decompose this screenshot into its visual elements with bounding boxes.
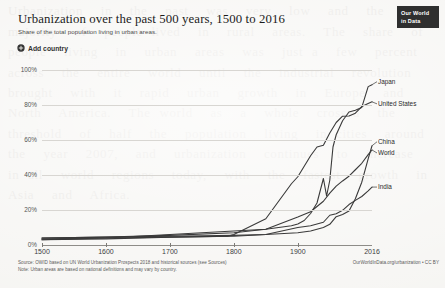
y-tick-label-60: 60% [2, 136, 37, 143]
plus-circle-icon [17, 44, 25, 52]
chart-title: Urbanization over the past 500 years, 15… [18, 12, 285, 27]
x-tick-label-1800: 1800 [226, 248, 242, 255]
gridline-20 [42, 210, 372, 211]
x-tick-label-1700: 1700 [162, 248, 178, 255]
series-lines [42, 70, 372, 245]
gridline-100 [42, 70, 372, 71]
y-tick-label-100: 100% [2, 66, 37, 73]
series-line-india[interactable] [42, 187, 372, 239]
series-label-united-states[interactable]: United States [378, 100, 416, 107]
series-label-world[interactable]: World [378, 149, 395, 156]
y-tick-label-20: 20% [2, 206, 37, 213]
plot-area [42, 70, 372, 245]
y-tick-label-40: 40% [2, 171, 37, 178]
leader-line-united-states [372, 102, 377, 104]
series-label-japan[interactable]: Japan [378, 78, 395, 85]
x-tick-1600 [106, 243, 107, 247]
series-line-china[interactable] [42, 146, 372, 238]
credit-link[interactable]: OurWorldInData.org/urbanization • CC BY [353, 260, 439, 265]
source-note: Source: OWID based on UN World Urbanizat… [18, 260, 227, 265]
y-tick-label-80: 80% [2, 101, 37, 108]
gridline-40 [42, 175, 372, 176]
add-country-button[interactable]: Add country [17, 44, 68, 52]
gridline-60 [42, 140, 372, 141]
chart-sheet: Our World in Data Urbanization over the … [0, 0, 445, 288]
leader-line-world [372, 150, 377, 153]
chart-subtitle: Share of the total population living in … [18, 28, 157, 35]
x-tick-label-1600: 1600 [98, 248, 114, 255]
series-line-japan[interactable] [42, 85, 372, 240]
x-tick-1700 [170, 243, 171, 247]
our-world-in-data-logo: Our World in Data [397, 6, 439, 28]
leader-line-japan [372, 82, 377, 85]
x-tick-1900 [298, 243, 299, 247]
add-country-label: Add country [28, 45, 68, 52]
y-tick-label-0: 0% [2, 241, 37, 248]
x-tick-label-1900: 1900 [290, 248, 306, 255]
leader-line-china [372, 142, 377, 146]
series-label-india[interactable]: India [378, 183, 392, 190]
logo-line-1: Our World [401, 10, 435, 18]
x-tick-label-1500: 1500 [34, 248, 50, 255]
x-tick-1500 [42, 243, 43, 247]
series-line-united-states[interactable] [42, 102, 372, 240]
x-tick-1800 [234, 243, 235, 247]
definition-note: Note: Urban areas are based on national … [18, 267, 177, 272]
series-line-world[interactable] [42, 150, 372, 238]
logo-line-2: in Data [401, 18, 435, 26]
series-label-china[interactable]: China [378, 138, 395, 145]
x-tick-label-2016: 2016 [364, 248, 380, 255]
gridline-0 [42, 245, 372, 246]
gridline-80 [42, 105, 372, 106]
